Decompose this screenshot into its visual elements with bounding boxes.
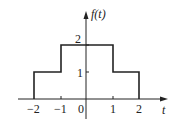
- origin-label: 0: [78, 102, 84, 116]
- ytick-label-2: 2: [75, 32, 81, 46]
- chart: f(t) t 2 1 −2 −1 0 1 2: [0, 0, 181, 126]
- x-axis-label: t: [162, 103, 166, 117]
- xtick-label-2: 2: [136, 102, 142, 116]
- y-axis-label: f(t): [91, 7, 106, 21]
- x-axis-arrow-icon: [160, 97, 168, 102]
- xtick-label-m1: −1: [54, 102, 67, 116]
- y-axis-arrow-icon: [84, 11, 89, 19]
- ytick-label-1: 1: [77, 66, 83, 80]
- xtick-label-1: 1: [110, 102, 116, 116]
- xtick-label-m2: −2: [27, 102, 40, 116]
